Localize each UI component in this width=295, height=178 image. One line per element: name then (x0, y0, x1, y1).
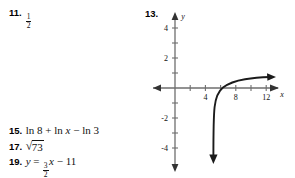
y-axis-label: y (180, 12, 185, 21)
answer-expression-17: √ 73 (26, 140, 44, 153)
y-tick-label-2: 2 (164, 54, 168, 63)
answer-expression-19: y = 3 2 x − 11 (26, 156, 77, 178)
answer-expression-11: 1 2 (25, 7, 32, 30)
x-axis-label: x (279, 90, 284, 99)
equals-sign: = (33, 155, 39, 167)
y-tick-label-minus-4: -4 (161, 144, 168, 153)
fraction-numerator: 1 (26, 13, 32, 21)
x-tick-label-4: 4 (203, 93, 207, 102)
y-tick-label-4: 4 (164, 24, 168, 33)
x-axis (153, 84, 279, 91)
answer-item-11: 11. 1 2 (9, 7, 32, 30)
x-axis-right-arrow-icon (270, 84, 279, 91)
radicand-value: 73 (32, 140, 44, 153)
radical-sign-icon: √ (26, 140, 33, 152)
log-term-first: ln 8 + ln (26, 124, 66, 136)
fraction-one-half: 1 2 (26, 13, 32, 30)
answer-number-15: 15. (9, 126, 22, 136)
graph-svg: 4 8 12 4 2 -2 -4 x y (150, 4, 290, 176)
curve-right-arrow-icon (267, 73, 276, 81)
answer-number-17: 17. (9, 142, 22, 152)
equation-lhs: y (26, 155, 31, 167)
x-tick-label-8: 8 (234, 93, 238, 102)
y-tick-label-minus-2: -2 (161, 114, 168, 123)
x-tick-label-12: 12 (262, 93, 270, 102)
x-axis-left-arrow-icon (153, 85, 161, 92)
answer-number-11: 11. (9, 8, 22, 18)
coefficient-numerator: 3 (43, 162, 49, 170)
answer-number-19: 19. (9, 157, 22, 167)
fraction-three-halves: 3 2 (43, 162, 49, 178)
answer-key-page: 11. 1 2 15. ln 8 + ln x − ln 3 17. √ 73 … (0, 0, 295, 178)
answer-item-17: 17. √ 73 (9, 140, 44, 153)
equation-constant: − 11 (57, 155, 77, 167)
coordinate-graph-figure: 4 8 12 4 2 -2 -4 x y (150, 4, 290, 176)
y-axis-top-arrow-icon (172, 12, 179, 20)
equation-variable: x (49, 155, 54, 167)
fraction-denominator: 2 (26, 21, 32, 30)
y-axis-bottom-arrow-icon (172, 164, 179, 172)
log-term-last: − ln 3 (70, 124, 99, 136)
answer-item-19: 19. y = 3 2 x − 11 (9, 156, 76, 178)
answer-item-15: 15. ln 8 + ln x − ln 3 (9, 125, 99, 136)
curve-down-arrow-icon (209, 155, 217, 165)
answer-expression-15: ln 8 + ln x − ln 3 (26, 125, 99, 136)
coefficient-denominator: 2 (43, 170, 49, 178)
